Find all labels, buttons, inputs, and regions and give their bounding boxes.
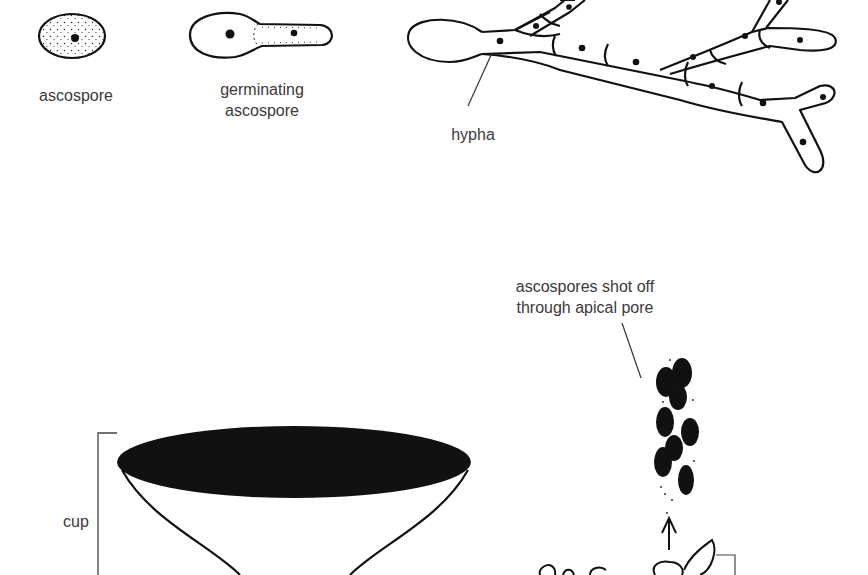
germinating-ascospore-label-line2: ascospore	[212, 101, 312, 120]
cup-bracket	[98, 433, 117, 575]
germinating-ascospore-label-line1: germinating	[212, 80, 312, 99]
hypha-leader-line	[468, 53, 492, 106]
germinating-ascospore-drawing	[190, 13, 332, 58]
ascospores-leader-line	[622, 323, 641, 378]
fungal-life-cycle-diagram: ascospore germinating ascospore hypha as…	[0, 0, 868, 575]
ejected-ascospores-drawing	[654, 358, 699, 514]
ascospores-shot-off-label-line1: ascospores shot off	[490, 277, 680, 296]
diagram-drawing	[0, 0, 868, 575]
hypha-drawing	[408, 0, 836, 172]
cup-drawing	[117, 426, 471, 575]
up-arrow-icon	[662, 518, 676, 550]
ascospore-label: ascospore	[26, 86, 126, 105]
asci-drawing	[540, 540, 735, 575]
ascospores-shot-off-label-line2: through apical pore	[490, 298, 680, 317]
hypha-label: hypha	[438, 125, 508, 144]
cup-label: cup	[58, 512, 94, 531]
ascospore-drawing	[39, 14, 105, 58]
